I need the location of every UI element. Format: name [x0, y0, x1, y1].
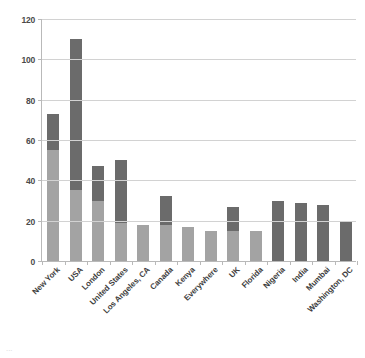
gridline	[42, 180, 356, 181]
x-tick-mark	[357, 261, 358, 265]
bar-segment	[205, 231, 217, 261]
y-tick-label: 60	[26, 137, 35, 146]
gridline	[42, 221, 356, 222]
bar-segment	[70, 190, 82, 261]
x-category-label: USA	[67, 266, 84, 283]
x-category-label: Canada	[149, 266, 175, 292]
y-tick-label: 80	[26, 96, 35, 105]
y-tick-mark	[38, 59, 42, 60]
y-tick-mark	[38, 100, 42, 101]
bar-segment	[272, 201, 284, 262]
y-tick-mark	[38, 140, 42, 141]
bar-segment	[47, 150, 59, 261]
chart-plot-wrapper: 020406080100120 New YorkUSALondonUnited …	[0, 0, 365, 358]
bar-segment	[115, 223, 127, 261]
bar-segment	[295, 203, 307, 261]
y-tick-mark	[38, 180, 42, 181]
bar-segment	[182, 227, 194, 261]
x-category-label: UK	[228, 266, 242, 280]
bar-segment	[250, 231, 262, 261]
x-axis-category-labels: New YorkUSALondonUnited StatesLos Angele…	[41, 262, 356, 358]
bar-segment	[92, 201, 104, 262]
gridline	[42, 140, 356, 141]
x-category-label: Nigeria	[263, 266, 287, 290]
x-category-label: Washington, DC	[306, 266, 354, 314]
caption-text: ...	[6, 346, 12, 353]
y-tick-mark	[38, 19, 42, 20]
bar-segment	[70, 39, 82, 190]
bar-segment	[227, 207, 239, 231]
y-tick-mark	[38, 221, 42, 222]
bar-chart: 020406080100120 New YorkUSALondonUnited …	[0, 0, 365, 358]
x-category-label: India	[291, 266, 310, 285]
x-category-label: Florida	[240, 266, 264, 290]
y-tick-label: 120	[21, 16, 35, 25]
gridline	[42, 100, 356, 101]
bar-segment	[115, 160, 127, 223]
y-tick-label: 20	[26, 217, 35, 226]
bar-segment	[92, 166, 104, 200]
y-tick-label: 100	[21, 56, 35, 65]
caption-strip: ...	[0, 346, 365, 358]
y-tick-label: 0	[30, 258, 35, 267]
bar-segment	[160, 225, 172, 261]
bar-segment	[137, 225, 149, 261]
bar-segment	[47, 114, 59, 150]
bar-segment	[340, 221, 352, 261]
y-axis-tick-labels: 020406080100120	[0, 0, 40, 358]
gridline	[42, 59, 356, 60]
gridline	[42, 19, 356, 20]
y-tick-label: 40	[26, 177, 35, 186]
bar-segment	[317, 205, 329, 261]
bar-segment	[227, 231, 239, 261]
plot-area	[41, 20, 356, 262]
